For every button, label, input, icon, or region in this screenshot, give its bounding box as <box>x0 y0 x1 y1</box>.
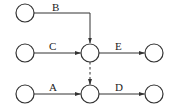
edge-label-d: D <box>115 81 123 93</box>
edge-label-e: E <box>115 40 122 52</box>
edge-label-a: A <box>49 81 57 93</box>
node-5 <box>16 85 34 103</box>
node-3 <box>81 44 99 62</box>
edge-label-b: B <box>52 1 59 13</box>
node-1 <box>16 4 34 22</box>
edge-b <box>34 13 90 43</box>
node-2 <box>16 44 34 62</box>
edge-label-c: C <box>49 40 56 52</box>
node-7 <box>145 85 163 103</box>
network-diagram: B C E A D <box>0 0 175 112</box>
node-4 <box>145 44 163 62</box>
node-6 <box>81 85 99 103</box>
